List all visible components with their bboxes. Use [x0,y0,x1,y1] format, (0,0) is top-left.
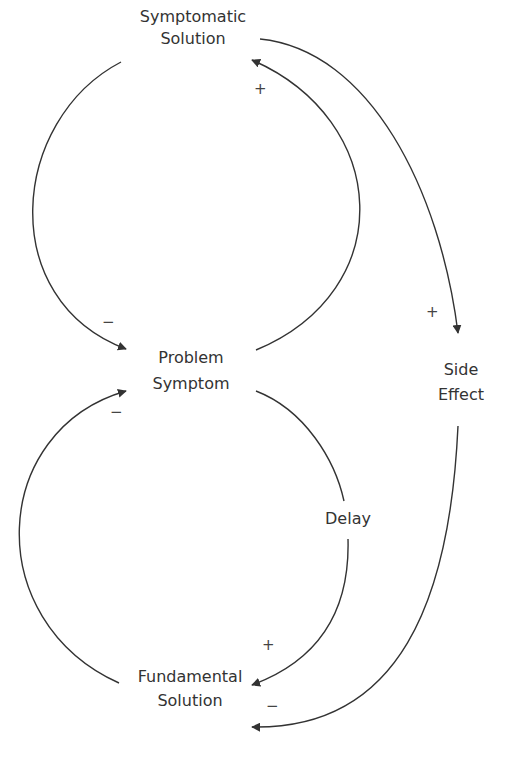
link-problem-to-symptomatic [252,60,360,350]
link-problem-to-delay [256,391,344,501]
node-delay: Delay [318,508,378,530]
polarity-plus-side-effect: + [426,305,439,320]
node-side-effect: Side Effect [426,357,496,407]
causal-loop-diagram: Symptomatic Solution Problem Symptom Sid… [0,0,521,765]
polarity-minus-left-top: − [102,315,115,330]
node-problem-symptom: Problem Symptom [137,340,245,402]
link-symptomatic-to-side-effect [260,39,458,333]
polarity-minus-left-bottom: − [110,405,123,420]
link-fundamental-to-problem [19,391,126,683]
node-side-effect-line2: Effect [426,382,496,407]
link-symptomatic-to-problem [33,62,126,349]
node-symptomatic-solution-line2: Solution [128,28,258,50]
node-symptomatic-solution: Symptomatic Solution [128,6,258,50]
polarity-minus-bottom: − [266,699,279,714]
link-side-effect-to-fundamental [252,426,458,727]
link-delay-to-fundamental [252,539,348,685]
node-fundamental-solution-line2: Solution [124,689,256,713]
polarity-plus-bottom: + [262,638,275,653]
node-fundamental-solution-line1: Fundamental [124,665,256,689]
node-symptomatic-solution-line1: Symptomatic [128,6,258,28]
node-side-effect-line1: Side [426,357,496,382]
polarity-plus-top-right: + [254,82,267,97]
node-delay-label: Delay [318,508,378,530]
node-problem-symptom-line2: Symptom [137,366,245,402]
node-fundamental-solution: Fundamental Solution [124,665,256,713]
